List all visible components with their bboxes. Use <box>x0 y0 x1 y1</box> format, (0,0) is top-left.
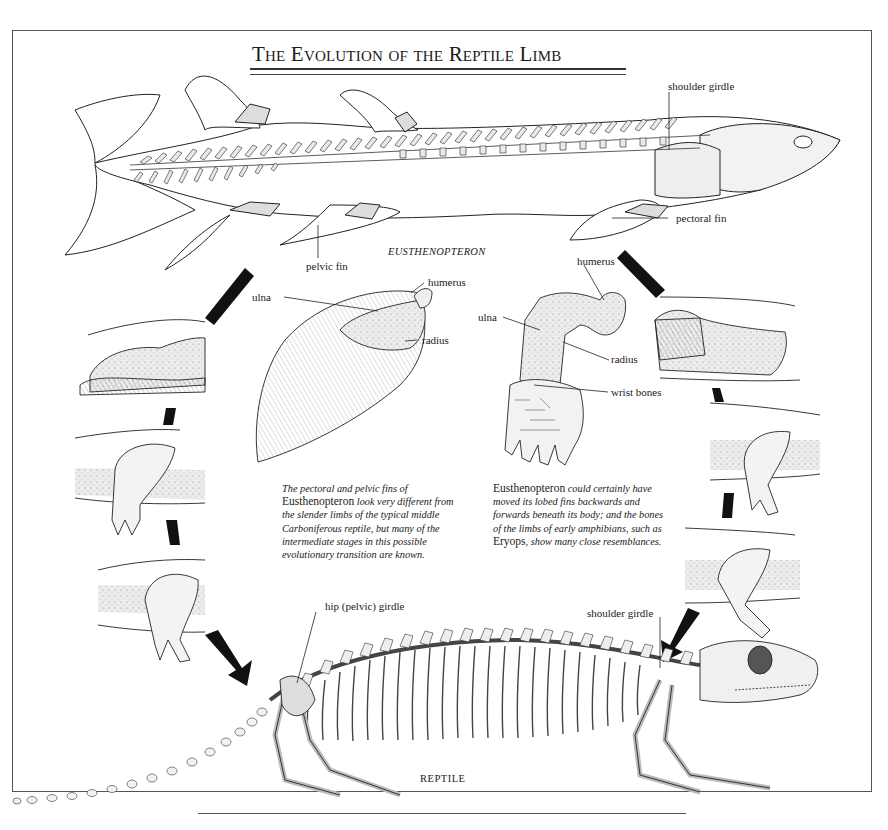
caption-left-genus: Eusthenopteron <box>282 495 354 507</box>
illustration <box>0 0 888 830</box>
reptile-name: REPTILE <box>420 773 466 784</box>
fish-eusthenopteron <box>65 76 840 270</box>
label-limb-ulna: ulna <box>478 311 497 323</box>
label-fin-ulna: ulna <box>252 291 271 303</box>
label-fin-radius: radius <box>422 334 449 346</box>
fin-bone-detail <box>256 289 432 462</box>
caption-right-genus: Eusthenopteron <box>493 482 565 494</box>
evolution-cycle-arrows <box>163 250 734 686</box>
label-limb-radius: radius <box>611 353 638 365</box>
label-pectoral-fin: pectoral fin <box>676 212 726 224</box>
label-fish-shoulder-girdle: shoulder girdle <box>668 80 734 92</box>
caption-left-pre: The pectoral and pelvic fins of <box>282 483 408 494</box>
limb-bone-detail <box>505 293 626 466</box>
caption-right-genus2: Eryops <box>493 535 526 547</box>
fish-name: EUSTHENOPTERON <box>388 246 486 257</box>
caption-left: The pectoral and pelvic fins of Eustheno… <box>282 482 462 561</box>
right-transition-panels <box>655 297 820 638</box>
left-transition-panels <box>75 320 205 662</box>
reptile-skeleton <box>13 628 818 804</box>
caption-right-post: , show many close resemblances. <box>526 536 662 547</box>
label-fin-humerus: humerus <box>428 276 466 288</box>
label-wrist-bones: wrist bones <box>611 386 661 398</box>
label-pelvic-fin: pelvic fin <box>306 260 348 272</box>
label-hip-girdle: hip (pelvic) girdle <box>325 600 404 612</box>
label-limb-humerus: humerus <box>577 255 615 267</box>
label-reptile-shoulder-girdle: shoulder girdle <box>587 607 653 619</box>
bottom-rule <box>198 813 686 814</box>
caption-right: Eusthenopteron could certainly have move… <box>493 482 668 548</box>
